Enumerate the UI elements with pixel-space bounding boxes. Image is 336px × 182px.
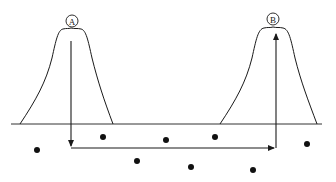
dot — [304, 141, 310, 147]
dot — [134, 158, 140, 164]
dot — [34, 147, 40, 153]
peak-b-curve — [220, 27, 317, 124]
peak-b-marker: B — [267, 13, 279, 25]
peak-b-label: B — [270, 15, 276, 25]
peak-a-label: A — [69, 17, 76, 27]
dot — [250, 167, 256, 173]
dot — [163, 137, 169, 143]
dot — [100, 134, 106, 140]
dot — [188, 164, 194, 170]
dot — [212, 134, 218, 140]
peak-a-curve — [20, 28, 113, 124]
peak-a-marker: A — [66, 15, 78, 27]
scattered-dots — [34, 134, 310, 173]
diagram-canvas: A B — [0, 0, 336, 182]
